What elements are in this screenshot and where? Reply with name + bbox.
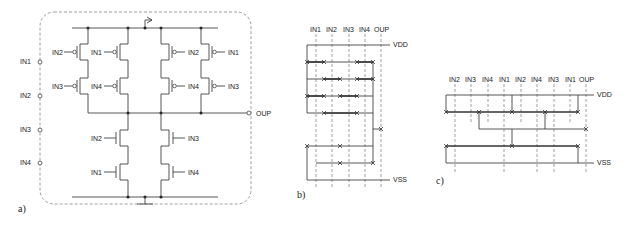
panel-a-labels: IN1 IN2 IN3 IN4 OUP IN2 IN3 IN1 IN4 IN2 … (18, 49, 272, 215)
svg-text:IN4: IN4 (188, 83, 199, 90)
panel-b-stick-diagram (305, 34, 390, 188)
svg-text:IN1: IN1 (91, 169, 102, 176)
svg-text:IN4: IN4 (188, 169, 199, 176)
svg-text:IN2: IN2 (515, 76, 526, 83)
svg-text:VDD: VDD (393, 41, 408, 48)
svg-text:IN1: IN1 (20, 58, 31, 65)
svg-text:IN4: IN4 (20, 159, 31, 166)
svg-text:OUP: OUP (374, 26, 390, 33)
svg-text:IN4: IN4 (359, 26, 370, 33)
svg-text:c): c) (436, 175, 444, 187)
svg-text:IN2: IN2 (91, 135, 102, 142)
svg-text:IN2: IN2 (52, 49, 63, 56)
panel-c-stick-diagram (444, 84, 594, 172)
svg-text:IN1: IN1 (228, 49, 239, 56)
svg-text:IN3: IN3 (548, 76, 559, 83)
svg-text:IN4: IN4 (531, 76, 542, 83)
circuit-figure: IN1 IN2 IN3 IN4 OUP IN2 IN3 IN1 IN4 IN2 … (0, 0, 632, 226)
svg-text:IN1: IN1 (565, 76, 576, 83)
svg-text:IN1: IN1 (310, 26, 321, 33)
svg-text:IN3: IN3 (465, 76, 476, 83)
svg-text:IN1: IN1 (499, 76, 510, 83)
svg-text:b): b) (297, 189, 305, 201)
svg-text:IN3: IN3 (343, 26, 354, 33)
svg-text:IN1: IN1 (91, 49, 102, 56)
svg-text:IN2: IN2 (188, 49, 199, 56)
svg-text:IN4: IN4 (482, 76, 493, 83)
svg-text:IN4: IN4 (91, 83, 102, 90)
svg-text:IN2: IN2 (20, 92, 31, 99)
svg-text:IN3: IN3 (52, 83, 63, 90)
svg-text:IN2: IN2 (449, 76, 460, 83)
svg-text:OUP: OUP (256, 110, 272, 117)
svg-text:a): a) (18, 203, 26, 215)
svg-text:VDD: VDD (597, 91, 612, 98)
svg-text:IN3: IN3 (228, 83, 239, 90)
svg-text:OUP: OUP (579, 76, 595, 83)
svg-text:IN3: IN3 (188, 135, 199, 142)
panel-a-schematic (38, 12, 251, 204)
svg-text:IN2: IN2 (326, 26, 337, 33)
svg-text:VSS: VSS (597, 159, 611, 166)
svg-text:VSS: VSS (393, 176, 407, 183)
panel-c-labels: IN2 IN3 IN4 IN1 IN2 IN4 IN3 IN1 OUP VDD … (436, 76, 612, 187)
svg-text:IN3: IN3 (20, 126, 31, 133)
